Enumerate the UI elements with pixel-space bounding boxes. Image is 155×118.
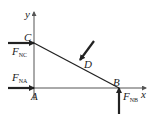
point-b-label: B <box>113 77 120 88</box>
force-fnc-subscript: NC <box>19 52 27 58</box>
y-axis-label: y <box>25 9 30 20</box>
point-d-label: D <box>84 59 92 70</box>
force-fnb-symbol: F <box>123 90 130 102</box>
force-fnb-subscript: NB <box>130 97 138 103</box>
x-axis-label: x <box>141 89 146 100</box>
force-fna-symbol: F <box>12 71 19 83</box>
force-fna-subscript: NA <box>19 78 28 84</box>
force-fnc-symbol: F <box>12 45 19 57</box>
rod-cb <box>34 43 119 88</box>
point-c-label: C <box>24 32 31 43</box>
force-fna-label: FNA <box>12 72 27 84</box>
point-a-label: A <box>31 91 38 102</box>
force-fnb-label: FNB <box>123 91 138 103</box>
force-fnc-label: FNC <box>12 46 27 58</box>
